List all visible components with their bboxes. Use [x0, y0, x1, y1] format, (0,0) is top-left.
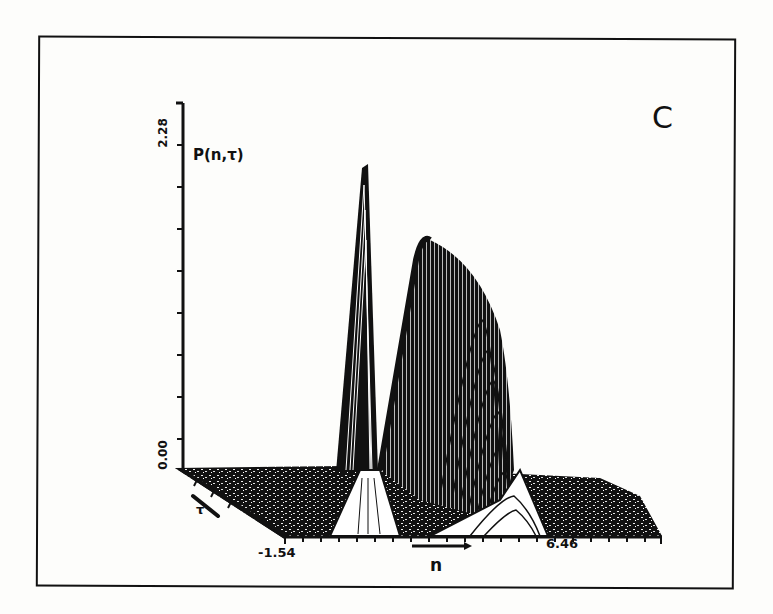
panel-letter: C [652, 100, 673, 135]
surface-plot [0, 0, 773, 614]
x-max-tick-label: 6.46 [546, 536, 578, 551]
z-min-tick-label: 0.00 [156, 440, 170, 470]
x-axis [283, 537, 662, 550]
x-min-tick-label: -1.54 [258, 545, 295, 560]
tau-axis-title: τ [196, 502, 204, 517]
z-max-tick-label: 2.28 [156, 118, 170, 148]
z-axis-title: P(n,τ) [193, 146, 244, 164]
z-axis [176, 103, 183, 470]
x-axis-title: n [430, 555, 442, 575]
